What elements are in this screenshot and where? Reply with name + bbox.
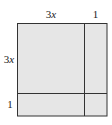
top-label-3x: 3x bbox=[46, 8, 57, 20]
area-model-diagram: 3x 1 3x 1 bbox=[0, 0, 112, 125]
region-1-by-3x bbox=[18, 93, 85, 116]
region-1-by-1 bbox=[84, 93, 107, 116]
top-label-1: 1 bbox=[93, 8, 99, 20]
left-label-3x: 3x bbox=[4, 53, 15, 65]
left-label-1: 1 bbox=[7, 98, 13, 110]
region-3x-by-3x bbox=[18, 24, 85, 94]
region-3x-by-1 bbox=[84, 24, 107, 94]
